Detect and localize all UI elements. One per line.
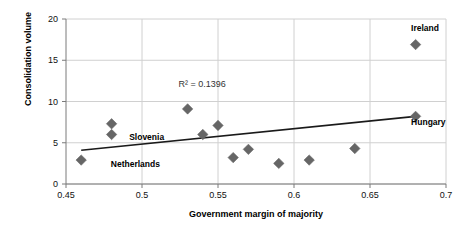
data-point-marker xyxy=(274,158,284,168)
x-tick-label: 0.6 xyxy=(274,190,314,200)
data-point-marker xyxy=(76,155,86,165)
y-tick-label: 20 xyxy=(32,14,58,24)
x-axis-title: Government margin of majority xyxy=(66,209,446,219)
x-tick-label: 0.5 xyxy=(122,190,162,200)
y-tick-label: 0 xyxy=(32,179,58,189)
x-tick-label: 0.45 xyxy=(46,190,86,200)
point-label: Netherlands xyxy=(111,159,160,169)
data-point-marker xyxy=(228,152,238,162)
data-point-marker xyxy=(350,143,360,153)
x-tick-label: 0.7 xyxy=(426,190,465,200)
x-tick-label: 0.55 xyxy=(198,190,238,200)
data-point-marker xyxy=(213,120,223,130)
data-point-marker xyxy=(243,144,253,154)
y-tick-label: 5 xyxy=(32,138,58,148)
point-label: Ireland xyxy=(411,23,439,33)
data-point-marker xyxy=(106,129,116,139)
y-tick-label: 15 xyxy=(32,55,58,65)
data-point-marker xyxy=(304,155,314,165)
y-tick-label: 10 xyxy=(32,97,58,107)
data-point-marker xyxy=(182,104,192,114)
point-label: Slovenia xyxy=(129,132,164,142)
x-tick-label: 0.65 xyxy=(350,190,390,200)
r-squared-annotation: R² = 0.1396 xyxy=(178,79,225,89)
data-point-marker xyxy=(410,39,420,49)
data-points xyxy=(76,39,421,168)
data-point-marker xyxy=(106,119,116,129)
point-label: Hungary xyxy=(411,117,445,127)
scatter-chart: Consolidation volume 05101520 0.450.50.5… xyxy=(0,0,465,235)
